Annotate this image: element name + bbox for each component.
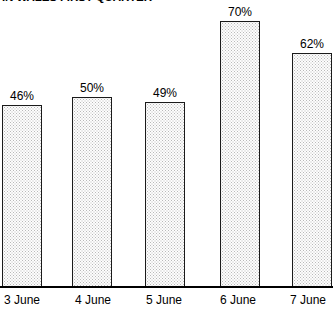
x-axis-label: 3 June [4,293,40,307]
bar-value-label: 49% [153,87,177,100]
bar-group: 50% [72,97,112,288]
bar-value-label: 46% [10,90,34,103]
x-axis-labels: 3 June 4 June 5 June 6 June 7 June [0,293,333,309]
bar[interactable] [145,102,185,288]
x-axis-label: 4 June [75,293,111,307]
bar-chart: IN WALES FIRST QUARTER 46% 50% 49% 70% 6… [0,0,333,315]
bar[interactable] [2,105,42,288]
plot-area: 46% 50% 49% 70% 62% [0,0,333,288]
bar-group: 46% [2,105,42,288]
bar-group: 62% [292,53,332,288]
x-axis-label: 6 June [220,293,256,307]
x-axis-label: 7 June [290,293,326,307]
bar[interactable] [72,97,112,288]
bar[interactable] [220,21,260,288]
bar-group: 70% [220,21,260,288]
x-axis-line [0,286,333,288]
bar-value-label: 70% [228,6,252,19]
bar-value-label: 62% [300,38,324,51]
bar-value-label: 50% [80,82,104,95]
bar-group: 49% [145,102,185,288]
bar[interactable] [292,53,332,288]
x-axis-label: 5 June [146,293,182,307]
